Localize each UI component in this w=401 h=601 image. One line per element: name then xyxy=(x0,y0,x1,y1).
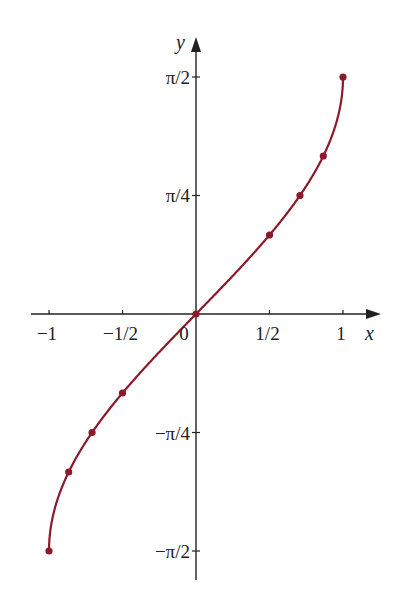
data-point xyxy=(339,73,346,80)
data-point xyxy=(88,429,95,436)
y-tick-label: −π/2 xyxy=(155,541,190,562)
data-point xyxy=(65,468,72,475)
y-tick-label: −π/4 xyxy=(155,423,191,444)
arcsin-chart: xy−1−1/201/21π/2π/4−π/4−π/2 xyxy=(0,0,401,601)
x-axis-arrow-icon xyxy=(366,309,381,319)
y-axis-label: y xyxy=(174,31,185,54)
x-axis-label: x xyxy=(364,322,374,344)
x-tick-label: 1/2 xyxy=(255,323,279,344)
data-point xyxy=(192,310,199,317)
data-point xyxy=(320,152,327,159)
data-point xyxy=(119,389,126,396)
y-axis-arrow-icon xyxy=(191,37,201,52)
y-tick-label: π/2 xyxy=(166,67,190,88)
data-point xyxy=(45,547,52,554)
x-tick-label: 0 xyxy=(179,323,189,344)
tick-labels: xy−1−1/201/21π/2π/4−π/4−π/2 xyxy=(37,31,374,562)
data-point xyxy=(296,192,303,199)
data-point xyxy=(266,231,273,238)
y-tick-label: π/4 xyxy=(166,185,191,206)
x-tick-label: −1/2 xyxy=(103,323,138,344)
x-tick-label: −1 xyxy=(37,323,57,344)
axes xyxy=(31,37,381,580)
x-tick-label: 1 xyxy=(336,323,346,344)
